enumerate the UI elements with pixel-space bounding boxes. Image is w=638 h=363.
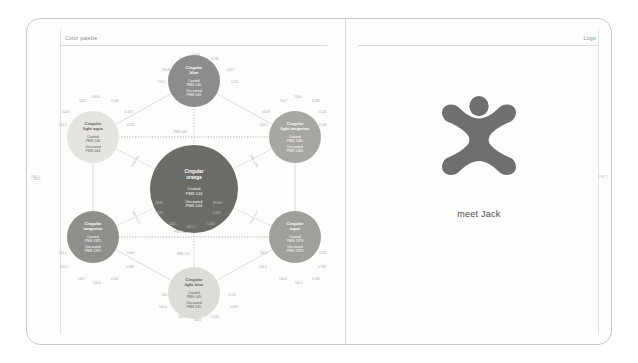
measure-tick: 0.100: [211, 315, 219, 319]
left-page: ◦ Color palette PM 1: [27, 19, 345, 344]
right-page-header-rule: [358, 45, 598, 46]
cingular-jack-logo-icon: [433, 91, 525, 183]
measure-tick: 100.1: [33, 177, 41, 181]
node-uncoated-spec: Uncoated PMS 540: [186, 89, 201, 98]
measure-tick: 0.148: [126, 265, 134, 269]
color-palette-diagram: 101.1 100.0 0.130 100.8 0.115 100.1 0.11…: [61, 55, 327, 323]
node-uncoated-spec: Uncoated PMS 545: [186, 301, 201, 310]
node-uncoated-spec: Uncoated PMS 544: [85, 145, 100, 154]
measure-tick: 100%: [155, 201, 163, 205]
measure-tick: 0.131: [125, 110, 133, 114]
measure-tick: W.000: [213, 201, 222, 205]
measure-tick: 0.113: [127, 123, 135, 127]
measure-tick: 100.1: [59, 251, 67, 255]
measure-tick: 0.130: [211, 57, 219, 61]
node-coated-spec: Coated PMS 144: [186, 187, 202, 197]
node-uncoated-spec: Uncoated PMS 1365: [287, 145, 304, 154]
node-coated-spec: Coated PMS 544: [86, 135, 101, 144]
measure-tick: 0.111: [231, 80, 238, 84]
node-name: Cingular light blue: [185, 277, 204, 287]
measure-tick: 0.000: [127, 251, 135, 255]
logo-block: meet Jack: [346, 91, 612, 219]
measure-tick: 100.1: [158, 80, 166, 84]
measure-tick: 00.1.7: [187, 225, 196, 229]
measure-tick: 100.0: [294, 95, 302, 99]
right-page: Logo ◦ PM 2 meet Jack: [346, 19, 612, 344]
left-page-header-label: Color palette: [65, 35, 97, 41]
palette-node-light-tangerine[interactable]: Cingular light tangerine Coated PMS 1365…: [269, 111, 321, 163]
measure-tick: 100.7: [280, 99, 288, 103]
measure-tick: 100.7: [78, 277, 86, 281]
palette-node-blue[interactable]: Cingular blue Coated PMS 540 Uncoated PM…: [168, 55, 220, 107]
measure-tick: 0.110: [111, 277, 119, 281]
measure-tick: 100.4: [259, 265, 267, 269]
measure-tick: 100.0: [92, 95, 100, 99]
measure-tick: 55.19: [155, 211, 163, 215]
measure-tick: 100.1: [260, 123, 268, 127]
measure-tick: 100.4: [279, 277, 287, 281]
measure-tick: 100.2: [260, 251, 268, 255]
node-name: Cingular blue: [185, 65, 202, 75]
node-name: Cingular light aqua: [83, 121, 103, 131]
measure-tick: 100.4: [159, 305, 167, 309]
measure-tick: 1.005: [207, 222, 215, 226]
measure-tick: 0.295: [230, 305, 238, 309]
measure-tick: 0.131: [319, 110, 327, 114]
node-uncoated-spec: Uncoated PMS 1375: [85, 245, 102, 254]
measure-tick: 0.115: [227, 68, 235, 72]
connector-label: PMS 144: [177, 252, 190, 256]
measure-tick: 014.8: [262, 110, 270, 114]
palette-node-orange[interactable]: Cingular orange Coated PMS 144 Uncoated …: [150, 145, 238, 233]
node-name: Cingular aqua: [286, 221, 303, 231]
measure-tick: 0.744: [312, 277, 320, 281]
left-page-header-rule: [61, 45, 327, 46]
measure-tick: 0.007: [213, 211, 221, 215]
node-coated-spec: Coated PMS 540: [187, 79, 202, 88]
palette-node-light-aqua[interactable]: Cingular light aqua Coated PMS 544 Uncoa…: [67, 111, 119, 163]
measure-tick: 100.4: [60, 265, 68, 269]
palette-node-aqua[interactable]: Cingular aqua Coated PMS 7473 Uncoated P…: [269, 211, 321, 263]
right-page-corner-tick: ◦: [606, 37, 607, 42]
palette-node-tangerine[interactable]: Cingular tangerine Coated PMS 1375 Uncoa…: [67, 211, 119, 263]
node-uncoated-spec: Uncoated PMS 7473: [287, 245, 304, 254]
measure-tick: 100.1: [169, 222, 177, 226]
measure-tick: 0.240: [312, 99, 320, 103]
measure-tick: 0.113: [319, 251, 327, 255]
node-coated-spec: Coated PMS 7473: [287, 235, 304, 244]
node-coated-spec: Coated PMS 1365: [287, 135, 304, 144]
node-name: Cingular light tangerine: [281, 121, 310, 131]
measure-tick: 100.1: [295, 281, 303, 285]
node-name: Cingular tangerine: [84, 221, 103, 231]
palette-node-light-blue[interactable]: Cingular light blue Coated PMS 545 Uncoa…: [168, 267, 220, 319]
measure-tick: 100.4: [93, 281, 101, 285]
measure-tick: 0.730: [318, 265, 326, 269]
measure-tick: 0.140: [319, 123, 327, 127]
node-uncoated-spec: Uncoated PMS 144: [185, 200, 202, 210]
node-coated-spec: Coated PMS 545: [187, 291, 202, 300]
measure-tick: 0.144: [111, 99, 119, 103]
meet-jack-caption: meet Jack: [457, 209, 500, 219]
measure-tick: 102.6: [62, 110, 70, 114]
measure-tick: 102.1: [79, 99, 87, 103]
node-name: Cingular orange: [184, 169, 203, 180]
right-page-header-label: Logo: [584, 35, 596, 41]
left-page-corner-tick: ◦: [49, 37, 50, 42]
node-coated-spec: Coated PMS 1375: [85, 235, 102, 244]
connector-label: PMS 544: [174, 130, 187, 134]
measure-tick: 0.710: [228, 293, 236, 297]
measure-tick: 101.1: [59, 123, 67, 127]
brand-guidelines-spread: ◦ Color palette PM 1: [26, 18, 612, 345]
